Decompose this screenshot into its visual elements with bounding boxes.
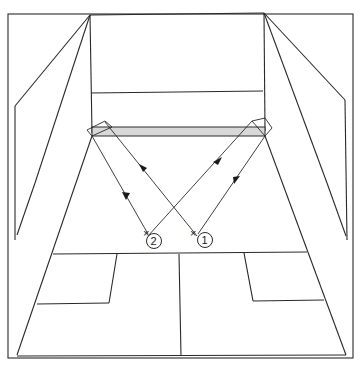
- shot-paths: [92, 121, 265, 236]
- shot-path-front-left-to-2: [92, 136, 148, 234]
- squash-court-diagram: × 2 × 1: [0, 0, 362, 366]
- player-2-label: 2: [151, 235, 157, 247]
- front-wall-service-line: [91, 91, 263, 93]
- left-side-wall: [12, 15, 92, 360]
- right-service-box: [244, 253, 324, 301]
- half-court-line: [179, 254, 181, 356]
- arrowheads: [122, 157, 240, 200]
- arrow-up-right-icon: [213, 157, 222, 165]
- player-2-marker: × 2: [143, 227, 162, 249]
- shot-path-front-right-to-1: [198, 136, 265, 234]
- front-wall: [90, 13, 265, 133]
- court-drawing: × 2 × 1: [0, 0, 362, 366]
- svg-text:×: ×: [190, 227, 196, 239]
- arrow-down-left-icon: [233, 176, 240, 184]
- arrow-up-left-icon: [139, 164, 147, 172]
- short-line: [53, 252, 307, 254]
- right-side-wall: [264, 13, 347, 355]
- arrow-down-right-icon: [122, 192, 130, 200]
- player-1-marker: × 1: [190, 227, 213, 248]
- shot-path-1-to-front-left: [105, 122, 197, 236]
- player-1-label: 1: [202, 234, 208, 246]
